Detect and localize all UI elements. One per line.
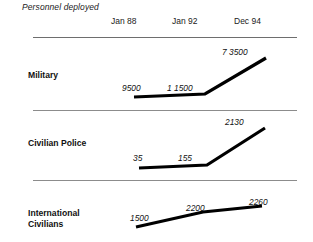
value-international-civilians-jan-88: 1500 xyxy=(130,213,149,223)
column-header-jan-92: Jan 92 xyxy=(172,16,198,26)
value-military-jan-88: 9500 xyxy=(122,83,141,93)
row-label-civilian-police: Civilian Police xyxy=(28,138,86,149)
page-title: Personnel deployed xyxy=(22,2,99,12)
row-label-international-civilians: International Civilians xyxy=(28,208,80,229)
chart-container: Personnel deployed Jan 88 Jan 92 Dec 94 … xyxy=(0,0,313,242)
row-label-military: Military xyxy=(28,70,58,81)
value-international-civilians-dec-94: 2260 xyxy=(249,197,268,207)
sparkline-civilian-police xyxy=(139,128,265,168)
value-civilian-police-dec-94: 2130 xyxy=(225,117,244,127)
sparkline-military xyxy=(134,58,266,97)
value-civilian-police-jan-92: 155 xyxy=(178,153,192,163)
divider-top xyxy=(33,37,297,38)
divider-police-civilians xyxy=(33,180,297,181)
column-header-jan-88: Jan 88 xyxy=(111,16,137,26)
value-military-dec-94: 7 3500 xyxy=(222,47,248,57)
value-civilian-police-jan-88: 35 xyxy=(133,153,142,163)
value-international-civilians-jan-92: 2200 xyxy=(186,203,205,213)
value-military-jan-92: 1 1500 xyxy=(167,83,193,93)
divider-military-police xyxy=(33,110,297,111)
column-header-dec-94: Dec 94 xyxy=(234,16,261,26)
